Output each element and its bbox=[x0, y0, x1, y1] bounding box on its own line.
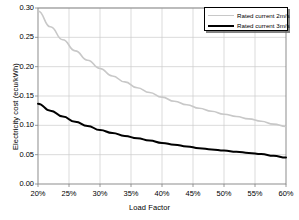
plot-canvas bbox=[0, 0, 299, 220]
y-tick-label: 0.00 bbox=[6, 179, 34, 188]
x-axis-title: Load Factor bbox=[0, 203, 299, 212]
x-tick-label: 45% bbox=[176, 189, 210, 198]
legend-item: Rated current 3m/s bbox=[208, 21, 284, 30]
x-tick-label: 50% bbox=[207, 189, 241, 198]
x-tick-label: 20% bbox=[21, 189, 55, 198]
x-tick-label: 55% bbox=[238, 189, 272, 198]
x-tick-label: 40% bbox=[145, 189, 179, 198]
legend-item-label: Rated current 2m/s bbox=[237, 12, 290, 20]
y-tick-label: 0.05 bbox=[6, 150, 34, 159]
chart-legend: Rated current 2m/s Rated current 3m/s bbox=[204, 7, 288, 31]
y-tick-label: 0.30 bbox=[6, 3, 34, 12]
y-tick-label: 0.25 bbox=[6, 32, 34, 41]
y-axis-title: Electricity cost (ecu/kWh) bbox=[11, 63, 20, 150]
gridlines bbox=[38, 8, 286, 184]
x-tick-label: 60% bbox=[269, 189, 299, 198]
legend-swatch-icon bbox=[208, 25, 234, 27]
chart-figure: 0.000.050.100.150.200.250.30 20%25%30%35… bbox=[0, 0, 299, 220]
legend-item: Rated current 2m/s bbox=[208, 11, 284, 20]
x-tick-label: 25% bbox=[52, 189, 86, 198]
x-tick-label: 30% bbox=[83, 189, 117, 198]
legend-swatch-icon bbox=[208, 15, 234, 16]
legend-item-label: Rated current 3m/s bbox=[237, 22, 290, 30]
x-tick-label: 35% bbox=[114, 189, 148, 198]
